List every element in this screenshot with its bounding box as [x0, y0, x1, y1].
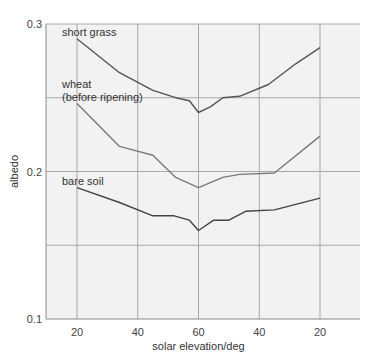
y-tick-label: 0.2 [27, 166, 42, 178]
x-tick-label: 20 [71, 326, 83, 338]
series-label: short grass [62, 26, 117, 38]
y-tick-label: 0.1 [27, 313, 42, 325]
series-label: (before ripening) [62, 91, 143, 103]
x-tick-label: 60 [192, 326, 204, 338]
y-tick-label: 0.3 [27, 18, 42, 30]
x-tick-label: 20 [314, 326, 326, 338]
series-label: bare soil [62, 175, 104, 187]
x-axis-label: solar elevation/deg [152, 340, 244, 352]
y-axis-label: albedo [8, 155, 20, 188]
albedo-chart: 0.10.20.32040604020 short grasswheat(bef… [0, 0, 371, 356]
x-tick-label: 40 [132, 326, 144, 338]
x-tick-label: 40 [253, 326, 265, 338]
series-label: wheat [61, 78, 91, 90]
